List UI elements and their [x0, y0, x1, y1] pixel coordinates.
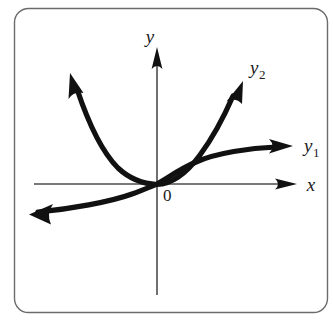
curve-y1-label-subscript: 1 [313, 145, 320, 160]
curve-y2-label-subscript: 2 [259, 67, 266, 82]
graph-svg: y x 0 y 1 y 2 [0, 0, 333, 321]
x-axis-label: x [306, 174, 316, 195]
curve-y2-label-base: y [248, 57, 259, 78]
curve-y1-label-base: y [302, 135, 313, 156]
y-axis-label: y [144, 26, 155, 47]
figure-frame [15, 9, 328, 313]
figure-container: y x 0 y 1 y 2 [0, 0, 333, 321]
origin-label: 0 [163, 186, 172, 205]
